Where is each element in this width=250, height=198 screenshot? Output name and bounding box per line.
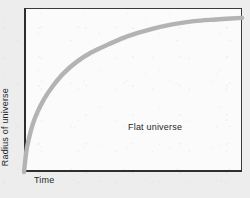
y-axis-label: Radius of universe: [0, 88, 10, 166]
flat-universe-annotation: Flat universe: [128, 122, 182, 132]
figure-container: Radius of universe Time Flat universe: [0, 0, 250, 198]
x-axis-label: Time: [34, 175, 54, 185]
expansion-curve-chart: [24, 8, 242, 172]
flat-universe-curve: [24, 18, 242, 172]
